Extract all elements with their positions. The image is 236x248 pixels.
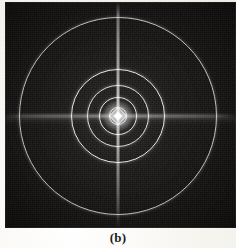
diffraction-ring-1 xyxy=(109,107,127,125)
horizontal-streak-icon xyxy=(5,115,236,118)
central-maximum-glow xyxy=(103,101,133,131)
diffraction-ring-2 xyxy=(99,97,137,135)
diffraction-ring-5 xyxy=(19,17,217,215)
central-maximum-dot xyxy=(114,112,122,120)
plate-vignette xyxy=(5,2,236,228)
figure-caption: (b) xyxy=(0,230,236,246)
diffraction-ring-4 xyxy=(71,69,165,163)
central-maximum-square xyxy=(109,107,127,125)
diffraction-ring-3 xyxy=(87,85,149,147)
figure-panel-b: (b) xyxy=(0,0,236,248)
horizontal-smear xyxy=(5,114,236,123)
film-grain-texture xyxy=(5,2,236,228)
vertical-streak-icon xyxy=(117,2,120,228)
central-halo-glow xyxy=(117,115,119,117)
diffraction-image-plate xyxy=(5,2,236,228)
